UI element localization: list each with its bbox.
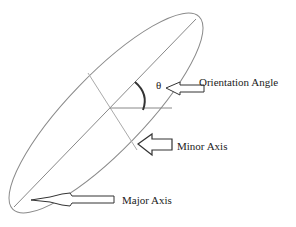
minor-axis-line <box>88 73 137 150</box>
minor-axis-label: Minor Axis <box>177 140 227 152</box>
major-axis-arrow-icon <box>31 193 114 206</box>
major-axis-label: Major Axis <box>122 194 172 206</box>
major-axis-line <box>14 19 196 207</box>
ellipse-diagram: θ Orientation Angle Minor Axis Major Axi… <box>0 0 296 227</box>
angle-arc <box>135 82 145 110</box>
minor-axis-arrow-icon <box>138 134 172 155</box>
theta-symbol: θ <box>156 79 161 91</box>
orientation-angle-label: Orientation Angle <box>199 76 278 88</box>
